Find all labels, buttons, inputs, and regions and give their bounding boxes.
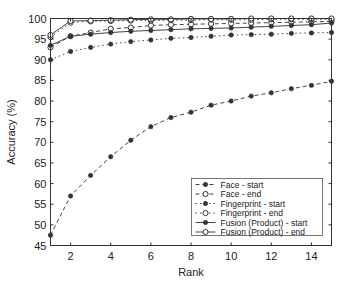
y-tick-label: 85: [34, 74, 46, 86]
y-tick-label: 50: [34, 219, 46, 231]
x-tick-label: 2: [68, 250, 74, 262]
accuracy-vs-rank-chart: 4550556065707580859095100 2468101214 Ran…: [0, 0, 346, 286]
y-tick-label: 45: [34, 240, 46, 252]
x-tick-label: 14: [305, 250, 317, 262]
legend-label: Fingerprint - start: [221, 199, 286, 209]
y-tick-label: 60: [34, 178, 46, 190]
y-tick-label: 65: [34, 157, 46, 169]
y-axis-label: Accuracy (%): [5, 99, 17, 164]
legend-label: Fusion (Product) - start: [221, 218, 309, 228]
legend: Face - startFace - endFingerprint - star…: [192, 179, 323, 238]
legend-label: Face - start: [221, 180, 265, 190]
x-tick-label: 12: [265, 250, 277, 262]
x-axis-label: Rank: [178, 266, 204, 278]
x-tick-label: 6: [148, 250, 154, 262]
y-tick-label: 75: [34, 116, 46, 128]
y-tick-label: 90: [34, 54, 46, 66]
y-tick-label: 80: [34, 95, 46, 107]
x-tick-label: 8: [188, 250, 194, 262]
x-tick-label: 4: [108, 250, 114, 262]
x-tick-label: 10: [225, 250, 237, 262]
legend-label: Face - end: [221, 189, 262, 199]
y-tick-label: 95: [34, 33, 46, 45]
y-tick-label: 55: [34, 198, 46, 210]
y-tick-label: 100: [28, 13, 46, 25]
y-tick-label: 70: [34, 136, 46, 148]
legend-label: Fingerprint - end: [221, 208, 284, 218]
legend-label: Fusion (Product) - end: [221, 227, 306, 237]
